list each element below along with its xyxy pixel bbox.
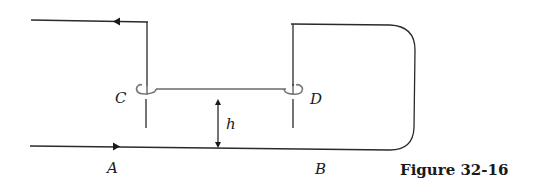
- right-loop-wire: [291, 24, 415, 150]
- bottom-wire: [30, 143, 300, 151]
- circuit-diagram: C D h A B Figure 32-16: [0, 0, 545, 188]
- label-a: A: [105, 159, 118, 177]
- label-c: C: [115, 89, 127, 107]
- label-b: B: [314, 160, 326, 178]
- loop-c-icon: [137, 84, 156, 95]
- arrow-up-icon: [215, 99, 221, 105]
- figure-caption: Figure 32-16: [400, 161, 508, 179]
- left-vertical-conductor: [146, 22, 147, 128]
- arrow-left-icon: [113, 18, 120, 26]
- label-h: h: [226, 115, 236, 133]
- arrow-right-icon: [113, 143, 120, 151]
- arrow-down-icon: [215, 142, 221, 148]
- height-dimension-arrow: [215, 99, 221, 148]
- top-left-wire: [31, 18, 148, 26]
- label-d: D: [309, 90, 322, 108]
